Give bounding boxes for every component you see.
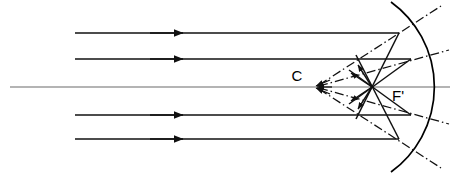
short-arrow-upper-inner: [358, 65, 372, 87]
incident-rays-group: [75, 33, 411, 139]
optics-diagram: C F': [0, 0, 454, 174]
label-focal-point: F': [392, 87, 404, 104]
arrowheads-to-c-group: [316, 80, 332, 94]
reflected-rays-group: [349, 33, 411, 139]
normal-line-1: [319, 6, 441, 85]
reflected-ray-1: [356, 33, 399, 119]
short-arrow-lower-inner: [358, 87, 372, 109]
label-center-of-curvature: C: [292, 67, 303, 84]
optics-canvas: C F': [0, 0, 454, 174]
